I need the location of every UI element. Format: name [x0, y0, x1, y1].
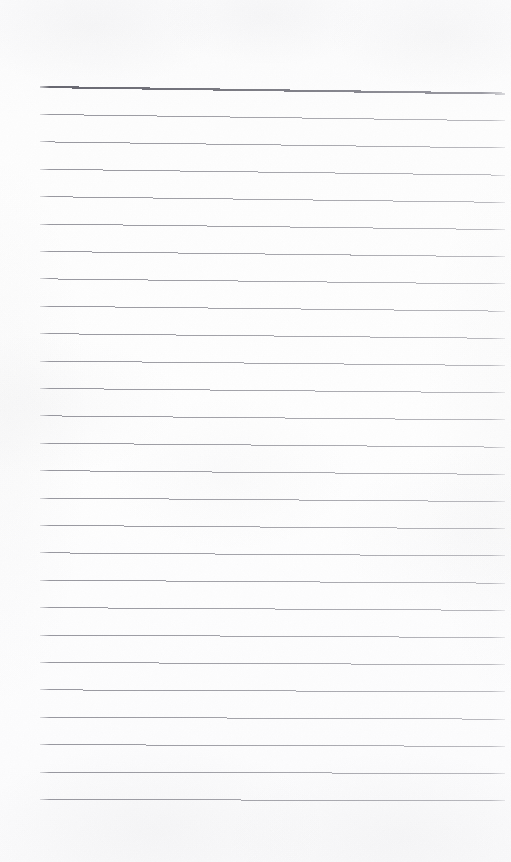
rule-line [40, 169, 505, 175]
rule-line [40, 498, 505, 502]
rule-line [40, 251, 505, 256]
header-rule-line [40, 87, 505, 94]
rule-line [40, 224, 505, 230]
rule-line [40, 717, 505, 719]
rule-line [40, 142, 505, 148]
rule-line [40, 799, 505, 800]
scanned-page [0, 0, 511, 862]
rule-line [40, 306, 505, 311]
rule-line [40, 416, 505, 420]
rule-line [40, 580, 505, 583]
ruled-lines-layer [0, 0, 511, 862]
rule-line [40, 334, 505, 339]
rule-line [40, 608, 505, 611]
rule-line-group [40, 87, 505, 801]
rule-line [40, 690, 505, 692]
rule-line [40, 279, 505, 284]
rule-line [40, 471, 505, 475]
rule-line [40, 662, 505, 664]
rule-line [40, 114, 505, 120]
rule-line [40, 553, 505, 556]
rule-line [40, 772, 505, 774]
rule-line [40, 388, 505, 392]
rule-line [40, 745, 505, 747]
rule-line [40, 525, 505, 528]
rule-line [40, 443, 505, 447]
rule-line [40, 635, 505, 638]
rule-line [40, 361, 505, 366]
rule-line [40, 197, 505, 203]
